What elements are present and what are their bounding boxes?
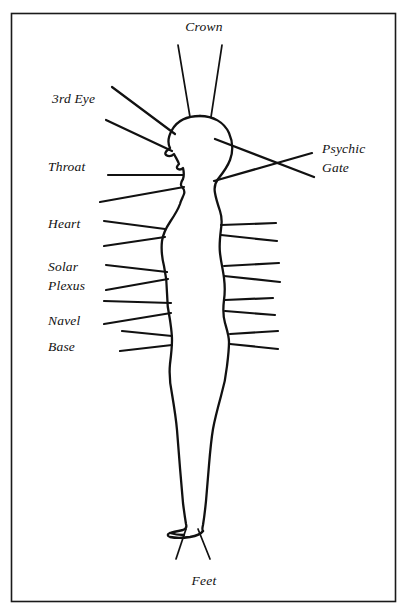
label-psychic-gate-line1: Psychic bbox=[321, 141, 365, 156]
label-throat: Throat bbox=[48, 159, 87, 174]
chakra-diagram-svg: Crown 3rd Eye Throat Heart Solar Plexus … bbox=[0, 0, 407, 616]
label-solar-plexus-line2: Plexus bbox=[47, 278, 85, 293]
chakra-diagram-root: Crown 3rd Eye Throat Heart Solar Plexus … bbox=[0, 0, 407, 616]
label-crown: Crown bbox=[185, 19, 222, 34]
label-base: Base bbox=[48, 339, 75, 354]
label-third-eye: 3rd Eye bbox=[51, 91, 95, 106]
label-heart: Heart bbox=[47, 216, 82, 231]
label-navel: Navel bbox=[47, 313, 81, 328]
label-solar-plexus-line1: Solar bbox=[48, 259, 79, 274]
label-psychic-gate-line2: Gate bbox=[322, 160, 349, 175]
label-feet: Feet bbox=[191, 573, 218, 588]
